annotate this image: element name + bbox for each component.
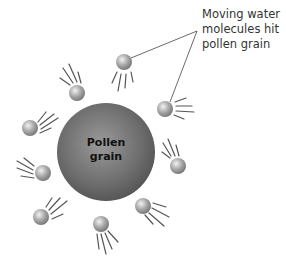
water-molecule	[93, 216, 109, 232]
callout-line-1: Moving water	[202, 7, 280, 22]
leader-line-right	[170, 31, 197, 102]
pollen-grain-label-line-2: grain	[56, 150, 156, 164]
water-molecule	[135, 198, 151, 214]
pollen-grain-label-line-1: Pollen	[56, 136, 156, 150]
water-molecule	[33, 209, 49, 225]
callout-line-3: pollen grain	[202, 37, 280, 52]
callout-line-2: molecules hit	[202, 22, 280, 37]
water-molecule	[35, 165, 51, 181]
water-molecule	[116, 54, 132, 70]
pollen-grain-label: Pollen grain	[56, 136, 156, 164]
water-molecule	[170, 158, 186, 174]
callout-label: Moving water molecules hit pollen grain	[202, 7, 280, 52]
leader-line-top	[131, 31, 197, 58]
water-molecule	[157, 101, 173, 117]
diagram-canvas: Moving water molecules hit pollen grain …	[0, 0, 286, 265]
callout-leader-lines	[131, 31, 197, 102]
water-molecule	[22, 120, 38, 136]
water-molecule	[69, 85, 85, 101]
